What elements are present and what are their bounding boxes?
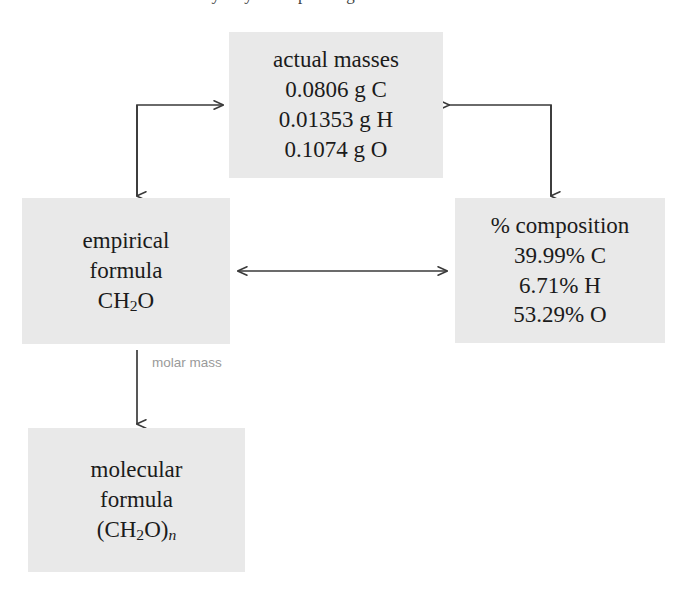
formula-part-subscript: 2 bbox=[136, 526, 144, 543]
node-actual-masses-value-h: 0.01353 g H bbox=[279, 105, 393, 135]
node-composition-heading: % composition bbox=[491, 211, 630, 241]
node-actual-masses-heading: actual masses bbox=[273, 45, 399, 75]
cropped-caption-text: many ways of expressing the same informa… bbox=[0, 0, 690, 7]
connector-actual-masses-to-composition bbox=[449, 105, 551, 196]
node-actual-masses[interactable]: actual masses 0.0806 g C 0.01353 g H 0.1… bbox=[229, 32, 443, 178]
node-empirical-heading-line2: formula bbox=[90, 256, 163, 286]
formula-part-pre: CH bbox=[98, 288, 130, 313]
formula-part-post: O bbox=[138, 288, 155, 313]
node-empirical-heading-line1: empirical bbox=[83, 226, 170, 256]
node-molecular-formula-text: (CH2O)n bbox=[97, 515, 177, 546]
node-molecular-heading-line2: formula bbox=[100, 485, 173, 515]
connector-empirical-to-actual-masses bbox=[137, 105, 223, 196]
node-empirical-formula-text: CH2O bbox=[98, 286, 154, 317]
edge-label-molar-mass: molar mass bbox=[152, 355, 222, 370]
node-molecular-formula[interactable]: molecular formula (CH2O)n bbox=[28, 428, 245, 572]
node-composition-value-c: 39.99% C bbox=[514, 241, 606, 271]
node-composition-value-o: 53.29% O bbox=[513, 300, 606, 330]
node-empirical-formula[interactable]: empirical formula CH2O bbox=[22, 198, 230, 344]
formula-part-italic-subscript-n: n bbox=[168, 526, 176, 543]
formula-part-pre: (CH bbox=[97, 517, 137, 542]
formula-part-subscript: 2 bbox=[130, 297, 138, 314]
node-composition-value-h: 6.71% H bbox=[519, 271, 601, 301]
node-actual-masses-value-c: 0.0806 g C bbox=[285, 75, 387, 105]
node-actual-masses-value-o: 0.1074 g O bbox=[285, 135, 388, 165]
formula-part-mid: O) bbox=[144, 517, 168, 542]
diagram-page: many ways of expressing the same informa… bbox=[0, 0, 690, 591]
node-molecular-heading-line1: molecular bbox=[91, 455, 183, 485]
node-percent-composition[interactable]: % composition 39.99% C 6.71% H 53.29% O bbox=[455, 198, 665, 343]
